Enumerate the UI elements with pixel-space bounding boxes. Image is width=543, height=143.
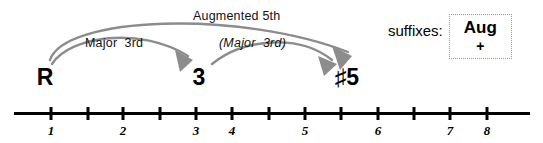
degree-marker-sharp-five: ♯5 — [335, 66, 359, 89]
number-line-tick — [159, 107, 162, 120]
interval-diagram: Augmented 5th Major 3rd (Major 3rd) R 3 … — [0, 0, 543, 143]
number-line-tick — [486, 107, 489, 120]
number-line-tick — [231, 107, 234, 120]
number-line-axis — [14, 112, 530, 115]
caption-augmented-5th: Augmented 5th — [193, 10, 280, 23]
suffix-box: Aug + — [449, 14, 512, 59]
number-line-tick — [268, 107, 271, 120]
number-line-tick — [340, 107, 343, 120]
number-line-tick — [195, 107, 198, 120]
number-line-label: 6 — [375, 124, 382, 137]
number-line-label: 4 — [229, 124, 236, 137]
number-line-tick — [449, 107, 452, 120]
number-line-tick — [50, 107, 53, 120]
number-line-tick — [122, 107, 125, 120]
number-line-tick — [304, 107, 307, 120]
number-line-label: 2 — [120, 124, 127, 137]
suffix-primary: Aug — [464, 18, 497, 38]
number-line-label: 3 — [193, 124, 200, 137]
number-line-label: 8 — [484, 124, 491, 137]
caption-major-3rd-parenthetical: (Major 3rd) — [219, 37, 286, 50]
caption-major-3rd: Major 3rd — [85, 37, 143, 50]
number-line-label: 7 — [447, 124, 454, 137]
number-line-tick — [87, 107, 90, 120]
number-line-label: 5 — [302, 124, 309, 137]
number-line-label: 1 — [48, 124, 55, 137]
number-line-tick — [377, 107, 380, 120]
suffix-alternate: + — [464, 38, 497, 55]
degree-marker-third: 3 — [193, 66, 206, 89]
number-line-tick — [413, 107, 416, 120]
chord-suffixes-panel: suffixes: Aug + — [388, 14, 512, 59]
degree-marker-root: R — [37, 66, 54, 89]
suffixes-label: suffixes: — [388, 14, 443, 38]
